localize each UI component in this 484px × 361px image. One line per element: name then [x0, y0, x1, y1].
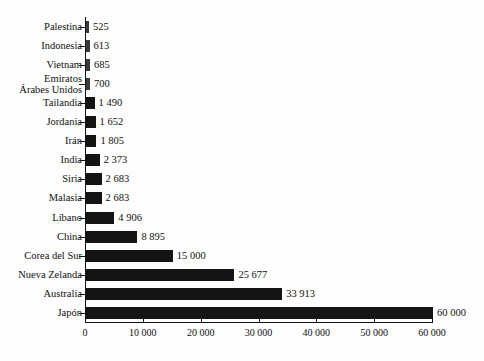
category-label: Palestina [0, 21, 82, 32]
category-label: Malasia [0, 192, 82, 203]
bar [86, 250, 173, 262]
bar [86, 269, 234, 281]
x-axis-tick [432, 317, 433, 323]
bar [86, 212, 114, 224]
bar-row: Emiratos Árabes Unidos700 [0, 74, 484, 94]
category-label: China [0, 231, 82, 242]
y-axis-tick [79, 256, 85, 257]
y-axis-tick [79, 141, 85, 142]
bar-value-label: 8 895 [141, 231, 165, 243]
category-label: Jordania [0, 116, 82, 127]
category-label: Corea del Sur [0, 250, 82, 261]
bar-row: Siria2 683 [0, 169, 484, 189]
bar [86, 288, 282, 300]
bar-value-label: 60 000 [437, 307, 466, 319]
bar-row: Indonesia613 [0, 36, 484, 56]
x-axis-tick-label: 10 000 [129, 327, 157, 338]
bar [86, 154, 100, 166]
bar-value-label: 525 [93, 21, 109, 33]
x-axis-tick-label: 40 000 [303, 327, 331, 338]
category-label: Australia [0, 288, 82, 299]
x-axis-tick-label: 60 000 [418, 327, 446, 338]
y-axis-tick [79, 84, 85, 85]
y-axis-tick [79, 46, 85, 47]
bar-value-label: 1 805 [100, 135, 124, 147]
chart-screenshot: Palestina525Indonesia613Vietnam685Emirat… [0, 0, 484, 361]
bar-row: Australia33 913 [0, 284, 484, 304]
bar-row: Tailandia1 490 [0, 93, 484, 113]
bar-row: Líbano4 906 [0, 208, 484, 228]
bar-value-label: 700 [94, 78, 110, 90]
y-axis-tick [79, 237, 85, 238]
bar-row: Japón60 000 [0, 303, 484, 323]
bar-value-label: 2 373 [104, 154, 128, 166]
bar [86, 192, 102, 204]
bar-value-label: 2 683 [106, 192, 130, 204]
bar [86, 97, 95, 109]
category-label: Nueva Zelanda [0, 269, 82, 280]
bar [86, 40, 90, 52]
bar-value-label: 2 683 [106, 173, 130, 185]
y-axis-tick [79, 198, 85, 199]
bar [86, 21, 89, 33]
x-axis-tick-label: 30 000 [245, 327, 273, 338]
bar-value-label: 25 677 [238, 269, 267, 281]
bar-row: Irán1 805 [0, 131, 484, 151]
category-label: India [0, 154, 82, 165]
y-axis-tick [79, 160, 85, 161]
y-axis-tick [79, 103, 85, 104]
bar-row: Corea del Sur15 000 [0, 246, 484, 266]
bar-value-label: 1 652 [100, 116, 124, 128]
y-axis-tick [79, 294, 85, 295]
bar-row: Palestina525 [0, 17, 484, 37]
category-label: Líbano [0, 212, 82, 223]
category-label: Indonesia [0, 40, 82, 51]
y-axis-tick [79, 218, 85, 219]
x-axis-tick [143, 317, 144, 323]
bar [86, 135, 96, 147]
bar-value-label: 4 906 [118, 212, 142, 224]
bar-row: Jordania1 652 [0, 112, 484, 132]
x-axis-tick [201, 317, 202, 323]
bar-row: India2 373 [0, 150, 484, 170]
x-axis-tick [374, 317, 375, 323]
category-label: Siria [0, 173, 82, 184]
bar-value-label: 613 [94, 40, 110, 52]
category-label: Japón [0, 307, 82, 318]
category-label: Emiratos Árabes Unidos [0, 73, 82, 95]
x-axis-tick-label: 50 000 [360, 327, 388, 338]
bar-value-label: 15 000 [177, 250, 206, 262]
y-axis-tick [79, 65, 85, 66]
bar-chart-plot-area: Palestina525Indonesia613Vietnam685Emirat… [0, 0, 484, 361]
x-axis-tick [85, 317, 86, 323]
category-label: Tailandia [0, 97, 82, 108]
bar [86, 78, 90, 90]
bar [86, 173, 102, 185]
bar [86, 231, 137, 243]
y-axis-tick [79, 27, 85, 28]
category-label: Irán [0, 135, 82, 146]
bar-row: Nueva Zelanda25 677 [0, 265, 484, 285]
bar-value-label: 1 490 [99, 97, 123, 109]
bar [86, 59, 90, 71]
bar-row: Vietnam685 [0, 55, 484, 75]
bar-row: Malasia2 683 [0, 188, 484, 208]
bar-row: China8 895 [0, 227, 484, 247]
y-axis-tick [79, 275, 85, 276]
y-axis-tick [79, 179, 85, 180]
bar-value-label: 685 [94, 59, 110, 71]
y-axis-tick [79, 313, 85, 314]
x-axis-tick [316, 317, 317, 323]
bar-value-label: 33 913 [286, 288, 315, 300]
category-label: Vietnam [0, 59, 82, 70]
x-axis-tick [259, 317, 260, 323]
bar [86, 116, 96, 128]
x-axis-tick-label: 20 000 [187, 327, 215, 338]
bar [86, 307, 433, 319]
y-axis-tick [79, 122, 85, 123]
x-axis-tick-label: 0 [83, 327, 88, 338]
